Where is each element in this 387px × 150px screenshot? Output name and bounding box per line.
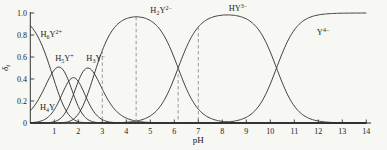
species-label-h5y: H5Y+ (55, 53, 74, 64)
species-label-part: 3− (241, 3, 248, 9)
y-tick-label-1.0: 1.0 (17, 9, 27, 18)
x-tick-label-9: 9 (244, 127, 248, 136)
species-label-h4y: H4Y (40, 103, 55, 113)
x-tick-label-14: 14 (362, 127, 370, 136)
species-label-h3y: H3Y− (86, 53, 105, 64)
ylabel-sub: i (4, 65, 11, 67)
species-label-part: + (70, 53, 74, 59)
x-tick-label-2: 2 (76, 127, 80, 136)
species-label-part: − (101, 53, 105, 59)
species-label-part: 2+ (56, 29, 63, 35)
x-tick-label-3: 3 (100, 127, 104, 136)
species-label-y4: Y4− (317, 27, 330, 37)
y-tick-label-0.6: 0.6 (17, 53, 27, 62)
distribution-chart-canvas: 123456789101112131400.20.40.60.81.0H6Y2+… (0, 0, 387, 150)
y-tick-label-0.4: 0.4 (17, 75, 27, 84)
x-tick-label-6: 6 (172, 127, 176, 136)
species-label-part: 4− (323, 27, 330, 33)
species-label-part: Y (49, 103, 55, 112)
x-tick-label-8: 8 (220, 127, 224, 136)
x-tick-label-4: 4 (124, 127, 128, 136)
y-tick-label-0.8: 0.8 (17, 31, 27, 40)
species-label-h6y: H6Y2+ (40, 29, 62, 40)
species-label-hy: HY3− (229, 3, 248, 13)
x-tick-label-13: 13 (338, 127, 346, 136)
species-label-h2y: H2Y2− (150, 5, 172, 16)
edta-distribution-figure: 123456789101112131400.20.40.60.81.0H6Y2+… (0, 0, 387, 150)
y-tick-label-0.2: 0.2 (17, 97, 27, 106)
x-tick-label-1: 1 (52, 127, 56, 136)
x-tick-label-10: 10 (266, 127, 274, 136)
x-axis-title: pH (193, 135, 205, 145)
x-tick-label-11: 11 (290, 127, 298, 136)
x-tick-label-5: 5 (148, 127, 152, 136)
y-tick-label-0: 0 (23, 119, 27, 128)
species-label-part: 2− (165, 5, 172, 11)
y-axis-title: δi (0, 65, 11, 71)
x-tick-label-12: 12 (314, 127, 322, 136)
